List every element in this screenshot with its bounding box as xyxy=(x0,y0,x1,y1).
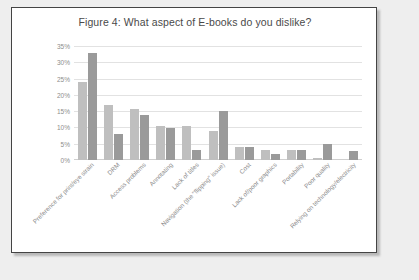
bar xyxy=(166,128,175,160)
x-axis-category-labels: Preference for print/eye strainDRMAccess… xyxy=(74,161,362,253)
bar xyxy=(114,134,123,160)
bar xyxy=(88,53,97,160)
y-axis-tick-label: 10% xyxy=(40,124,70,131)
bar-group xyxy=(74,46,100,160)
bar xyxy=(104,105,113,160)
bar-group xyxy=(205,46,231,160)
bar xyxy=(271,154,280,161)
bar-group xyxy=(310,46,336,160)
x-axis-category-label: Portability xyxy=(280,161,305,186)
y-axis-tick-label: 20% xyxy=(40,91,70,98)
bar xyxy=(219,111,228,160)
page-background: Figure 4: What aspect of E-books do you … xyxy=(0,0,419,280)
bar xyxy=(140,115,149,160)
bar xyxy=(130,109,139,160)
x-axis-category-label: Preference for print/eye strain xyxy=(31,161,95,225)
x-axis-category-label: DRM xyxy=(106,161,121,176)
x-axis-category-label: Annotating xyxy=(147,161,173,187)
bar xyxy=(297,150,306,160)
bar xyxy=(313,158,322,160)
bar xyxy=(182,126,191,160)
bar xyxy=(192,150,201,160)
plot-area: 35%30%25%20%15%10%5%0% xyxy=(74,46,362,160)
y-axis-tick-label: 35% xyxy=(40,43,70,50)
bar xyxy=(78,82,87,160)
bar-group xyxy=(153,46,179,160)
bar xyxy=(323,144,332,160)
bar xyxy=(245,147,254,160)
bar-groups xyxy=(74,46,362,160)
y-axis-tick-label: 15% xyxy=(40,108,70,115)
bar-group xyxy=(126,46,152,160)
bar xyxy=(287,150,296,160)
bar xyxy=(349,151,358,160)
y-axis-tick-label: 5% xyxy=(40,140,70,147)
bar-group xyxy=(100,46,126,160)
chart-figure: Figure 4: What aspect of E-books do you … xyxy=(11,7,377,253)
x-axis-category-label: Cost xyxy=(238,161,252,175)
y-axis-tick-label: 25% xyxy=(40,75,70,82)
bar xyxy=(261,150,270,160)
bar-group xyxy=(179,46,205,160)
bar-group xyxy=(336,46,362,160)
chart-title: Figure 4: What aspect of E-books do you … xyxy=(12,16,377,28)
bar xyxy=(235,147,244,160)
bar-group xyxy=(231,46,257,160)
y-axis-tick-label: 30% xyxy=(40,59,70,66)
bar xyxy=(209,131,218,160)
y-axis-tick-label: 0% xyxy=(40,157,70,164)
bar-group xyxy=(284,46,310,160)
bar xyxy=(156,126,165,160)
bar-group xyxy=(257,46,283,160)
